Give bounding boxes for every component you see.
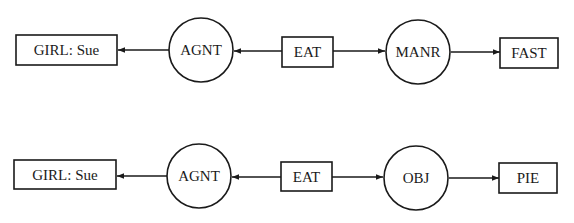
relation-obj: OBJ — [384, 146, 448, 210]
concept-eat: EAT — [282, 37, 333, 67]
concept-label: FAST — [511, 45, 547, 61]
concept-girl-sue: GIRL: Sue — [14, 160, 116, 189]
concept-fast: FAST — [500, 38, 558, 68]
concept-pie: PIE — [499, 163, 557, 193]
relation-manr: MANR — [386, 20, 450, 84]
concept-label: EAT — [294, 44, 322, 60]
relation-agnt: AGNT — [169, 18, 233, 82]
concept-girl-sue: GIRL: Sue — [16, 35, 117, 65]
concept-label: EAT — [293, 169, 321, 185]
relation-label: MANR — [395, 44, 440, 60]
relation-label: AGNT — [178, 168, 220, 184]
graph-1: GIRL: Sue AGNT EAT MANR FAST — [16, 18, 558, 84]
relation-agnt: AGNT — [167, 144, 231, 208]
concept-label: PIE — [517, 170, 540, 186]
relation-label: AGNT — [180, 42, 222, 58]
relation-label: OBJ — [403, 170, 430, 186]
graph-2: GIRL: Sue AGNT EAT OBJ PIE — [14, 144, 557, 210]
concept-label: GIRL: Sue — [34, 42, 100, 58]
conceptual-graph-diagram: GIRL: Sue AGNT EAT MANR FAST — [0, 0, 574, 223]
concept-eat: EAT — [281, 162, 332, 191]
concept-label: GIRL: Sue — [32, 167, 98, 183]
